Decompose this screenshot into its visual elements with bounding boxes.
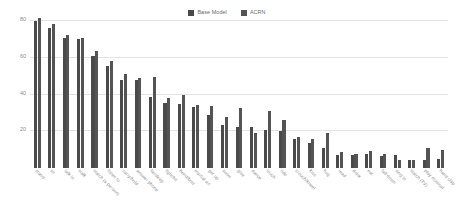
x-axis-label-cell: fall down [376, 168, 390, 222]
x-axis-label-cell: play musical [419, 168, 433, 222]
bar-base-model [120, 80, 123, 168]
x-axis-label-cell: bend/bow [174, 168, 188, 222]
bar-group [361, 14, 375, 168]
bar-group [30, 14, 44, 168]
bar-base-model [365, 154, 368, 168]
bar-base-model [207, 115, 210, 168]
bar-base-model [279, 131, 282, 168]
bar-base-model [48, 28, 51, 168]
x-axis-tick-label: hug [322, 169, 331, 178]
bar-group [203, 14, 217, 168]
bar-group [333, 14, 347, 168]
x-axis-label-cell: give [232, 168, 246, 222]
x-axis-label-cell: watch (a person) [88, 168, 102, 222]
bar-acrn [369, 151, 372, 168]
x-axis-tick-label: sit [48, 169, 55, 176]
bar-group [232, 14, 246, 168]
bar-acrn [52, 24, 55, 168]
bar-group [275, 14, 289, 168]
x-axis-label-cell: carry/hold [116, 168, 130, 222]
x-axis-label-cell: eat [361, 168, 375, 222]
bar-base-model [34, 21, 37, 168]
bar-acrn [81, 38, 84, 168]
bar-acrn [225, 117, 228, 168]
bar-base-model [221, 125, 224, 168]
y-axis-tick-label: 80 [20, 18, 26, 23]
bar-base-model [394, 155, 397, 168]
bar-group [174, 14, 188, 168]
legend-entry-acrn: ACRN [241, 10, 266, 16]
x-axis-tick-label: give [236, 169, 245, 178]
bar-base-model [63, 38, 66, 168]
x-axis-tick-label: walk [77, 169, 87, 179]
x-axis-label-cell: hug [318, 168, 332, 222]
y-axis-tick-label: 60 [20, 54, 26, 59]
x-axis-label-cell: read [333, 168, 347, 222]
x-axis-label-cell: fight/hit [160, 168, 174, 222]
x-axis-label-cell: touch [261, 168, 275, 222]
x-axis-label-cell: sit [44, 168, 58, 222]
bar-base-model [178, 104, 181, 168]
bar-base-model [308, 143, 311, 168]
plot-area: 20406080 [30, 14, 448, 168]
bar-base-model [192, 107, 195, 168]
bar-group [73, 14, 87, 168]
bar-base-model [149, 97, 152, 168]
x-axis-label-cell: answer phone [131, 168, 145, 222]
bar-acrn [210, 106, 213, 168]
bar-base-model [264, 130, 267, 168]
bar-base-model [77, 39, 80, 168]
bar-group [131, 14, 145, 168]
bar-acrn [110, 61, 113, 168]
x-axis-labels: standsittalk towalkwatch (a person)liste… [30, 168, 448, 222]
bar-acrn [441, 150, 444, 168]
bar-group [217, 14, 231, 168]
bar-group [347, 14, 361, 168]
x-axis-tick-label: swim [221, 169, 232, 180]
bar-acrn [282, 120, 285, 168]
x-axis-tick-label: eat [365, 169, 373, 177]
bar-group [145, 14, 159, 168]
x-axis-tick-label: ride [279, 169, 288, 178]
bar-acrn [239, 108, 242, 168]
bar-group [419, 14, 433, 168]
x-axis-label-cell: walk [73, 168, 87, 222]
bar-base-model [135, 80, 138, 168]
x-axis-label-cell: ride [275, 168, 289, 222]
bar-base-model [336, 155, 339, 168]
bar-acrn [340, 152, 343, 168]
y-axis-tick-label: 40 [20, 91, 26, 96]
legend-label-acrn: ACRN [250, 10, 266, 15]
bar-acrn [326, 133, 329, 168]
bar-group [289, 14, 303, 168]
bar-group [433, 14, 447, 168]
x-axis-label-cell: martial art [188, 168, 202, 222]
x-axis-tick-label: hand clap [437, 169, 455, 187]
bar-base-model [106, 66, 109, 168]
bar-group [246, 14, 260, 168]
legend-swatch-acrn [241, 10, 247, 16]
x-axis-label-cell: get up [203, 168, 217, 222]
bar-base-model [250, 127, 253, 168]
x-axis-label-cell: swim [217, 168, 231, 222]
bar-acrn [297, 137, 300, 168]
bar-series-container [30, 14, 448, 168]
bar-acrn [354, 154, 357, 168]
bar-base-model [408, 160, 411, 168]
bar-group [59, 14, 73, 168]
bar-acrn [95, 51, 98, 168]
bar-acrn [383, 154, 386, 168]
x-axis-label-cell: dance [246, 168, 260, 222]
bar-group [390, 14, 404, 168]
bar-acrn [268, 111, 271, 168]
bar-group [116, 14, 130, 168]
bar-base-model [163, 103, 166, 168]
bar-base-model [423, 160, 426, 168]
bar-group [304, 14, 318, 168]
legend-label-base-model: Base Model [197, 10, 226, 15]
bar-base-model [322, 148, 325, 168]
chart-legend: Base Model ACRN [0, 10, 454, 16]
x-axis-label-cell: hand clap [433, 168, 447, 222]
bar-base-model [437, 159, 440, 168]
